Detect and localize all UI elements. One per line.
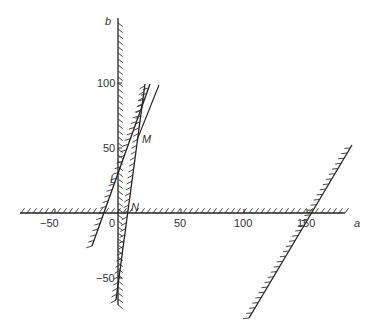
b-axis-label: b	[105, 15, 111, 27]
tick-label-b-100: 100	[97, 77, 115, 89]
constraint-line-N	[111, 84, 145, 303]
tick-label-b-50: 50	[103, 142, 115, 154]
point-label-L: L	[110, 173, 116, 185]
constraint-diagram: b a −50 0 50 100 150 100 50 −50 M L N	[0, 0, 377, 333]
point-label-M: M	[142, 133, 152, 145]
tick-label-a-100: 100	[234, 217, 252, 229]
constraint-line-150	[243, 145, 352, 319]
tick-label-a-minus50: −50	[40, 217, 59, 229]
tick-label-a-150: 150	[297, 217, 315, 229]
a-axis-label: a	[354, 217, 360, 229]
tick-label-a-50: 50	[174, 217, 186, 229]
tick-label-b-minus50: −50	[96, 272, 115, 284]
tick-label-origin: 0	[109, 217, 115, 229]
point-label-N: N	[131, 201, 139, 213]
a-axis	[20, 208, 349, 213]
